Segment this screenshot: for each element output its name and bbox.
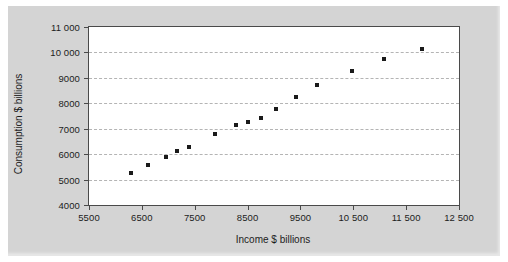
y-axis-tick-label: 4000 [58,200,80,211]
x-axis-tick [248,205,249,210]
data-point [187,145,191,149]
x-axis-tick-label: 9500 [290,212,312,223]
y-axis-tick-label: 9000 [58,72,80,83]
x-axis-tick-label: 7500 [184,212,206,223]
y-axis-tick [84,129,89,130]
x-axis-tick [195,205,196,210]
data-point [382,57,386,61]
data-point [146,163,150,167]
y-axis-tick [84,180,89,181]
y-axis-title: Consumption $ billions [13,74,24,175]
data-point [246,120,250,124]
data-point [294,95,298,99]
gridline [89,52,459,53]
y-axis-tick-label: 5000 [58,174,80,185]
x-axis-tick [459,205,460,210]
y-axis-tick-label: 6000 [58,149,80,160]
gridline [89,154,459,155]
x-axis-title: Income $ billions [236,234,310,245]
x-axis-tick [406,205,407,210]
y-axis-tick [84,78,89,79]
y-axis-tick [84,154,89,155]
gridline [89,129,459,130]
gridline [89,180,459,181]
data-point [129,171,133,175]
gridline [89,103,459,104]
y-axis-tick [84,52,89,53]
x-axis-tick-label: 5500 [78,212,100,223]
x-axis-tick-label: 6500 [131,212,153,223]
data-point [234,123,238,127]
x-axis-tick-label: 10 500 [338,212,368,223]
data-point [274,107,278,111]
data-point [164,155,168,159]
data-point [420,47,424,51]
y-axis-tick-label: 11 000 [51,22,80,33]
y-axis-tick-label: 8000 [58,98,80,109]
x-axis-tick [89,205,90,210]
x-axis-tick-label: 8500 [237,212,259,223]
x-axis-tick [300,205,301,210]
x-axis-tick-label: 11 500 [392,212,421,223]
plot-area: 40005000600070008000900010 00011 000 550… [88,26,460,206]
data-point [213,132,217,136]
data-point [175,149,179,153]
data-point [350,69,354,73]
chart-figure: Consumption $ billions Income $ billions… [8,6,500,256]
x-axis-tick [353,205,354,210]
x-axis-tick-label: 12 500 [444,212,474,223]
y-axis-tick-label: 7000 [58,123,80,134]
data-point [315,83,319,87]
y-axis-tick-label: 10 000 [50,47,80,58]
y-axis-tick [84,103,89,104]
x-axis-tick [142,205,143,210]
y-axis-tick [84,27,89,28]
gridline [89,78,459,79]
data-point [259,116,263,120]
